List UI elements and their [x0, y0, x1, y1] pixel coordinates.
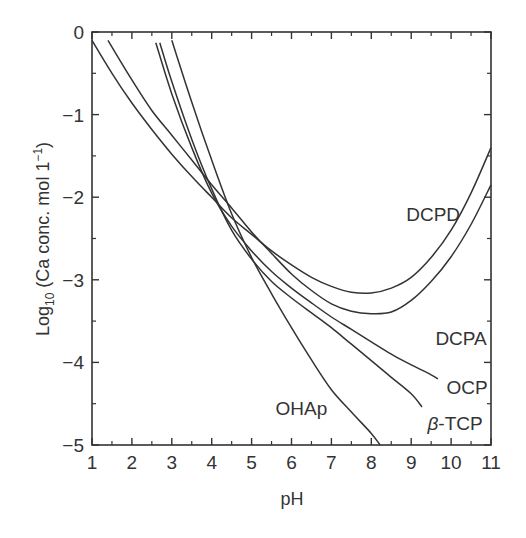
x-axis-title: pH: [280, 489, 303, 509]
y-axis-title-superscript: −1: [31, 148, 45, 162]
y-axis-title: Log10 (Ca conc. mol 1−1): [31, 142, 57, 336]
curve-ocp: [156, 43, 438, 379]
plot-border: [92, 32, 491, 445]
x-tick-label: 2: [127, 452, 138, 473]
y-axis-ticks: 0−1−2−3−4−5: [62, 22, 491, 456]
curve-labels: DCPDDCPAOCPβ-TCPOHAp: [276, 204, 488, 434]
curve-label-dcpd: DCPD: [406, 204, 460, 225]
y-tick-label: −5: [62, 435, 84, 456]
x-tick-label: 6: [286, 452, 297, 473]
curve-label-ocp: OCP: [446, 377, 487, 398]
curve-label-tcp: β-TCP: [426, 413, 482, 434]
curve-tcp: [160, 43, 422, 407]
x-tick-label: 11: [481, 452, 501, 473]
y-tick-label: −2: [62, 187, 84, 208]
x-tick-label: 3: [167, 452, 178, 473]
y-tick-label: −4: [62, 352, 84, 373]
x-tick-label: 4: [206, 452, 217, 473]
y-tick-label: −3: [62, 270, 84, 291]
plot-frame: [92, 32, 491, 445]
curve-dcpd: [92, 40, 491, 293]
y-axis-title-end: ): [33, 142, 53, 148]
y-tick-label: −1: [62, 105, 84, 126]
y-axis-title-main: Log: [33, 306, 53, 336]
x-tick-label: 9: [406, 452, 417, 473]
x-tick-label: 10: [441, 452, 462, 473]
curve-label-ohap: OHAp: [276, 398, 328, 419]
curve-ohap: [172, 40, 380, 445]
curve-dcpa: [108, 40, 491, 313]
solubility-chart: 1234567891011 0−1−2−3−4−5 DCPDDCPAOCPβ-T…: [0, 0, 526, 538]
x-tick-label: 7: [326, 452, 337, 473]
y-tick-label: 0: [73, 22, 84, 43]
y-axis-title-subscript: 10: [43, 292, 57, 306]
y-axis-title-rest: (Ca conc. mol 1: [33, 162, 53, 293]
curve-label-dcpa: DCPA: [435, 328, 487, 349]
x-tick-label: 8: [366, 452, 377, 473]
x-tick-label: 5: [246, 452, 257, 473]
x-tick-label: 1: [87, 452, 98, 473]
curves: [92, 40, 491, 445]
